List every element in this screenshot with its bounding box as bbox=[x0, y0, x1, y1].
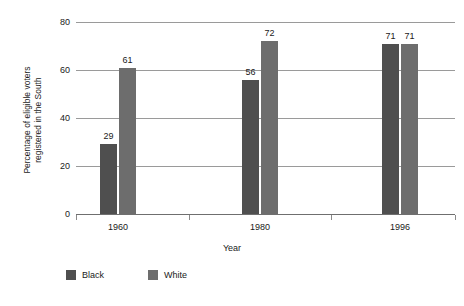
x-axis-title: Year bbox=[0, 243, 464, 253]
legend-item-black[interactable]: Black bbox=[66, 270, 104, 280]
legend-label: White bbox=[164, 270, 187, 280]
y-axis-tick-label: 60 bbox=[40, 65, 70, 75]
bar-white-1960 bbox=[119, 68, 136, 214]
bar-chart-figure: Percentage of eligible voters registered… bbox=[0, 0, 464, 306]
legend-swatch-icon bbox=[66, 270, 76, 280]
bar-black-1996 bbox=[382, 44, 399, 214]
y-axis-title-line-1: Percentage of eligible voters bbox=[22, 66, 34, 173]
y-axis-tick-label: 40 bbox=[40, 113, 70, 123]
bar-value-label: 71 bbox=[395, 31, 424, 41]
plot-area: 296156727171 196019801996 bbox=[76, 22, 455, 214]
legend-swatch-icon bbox=[148, 270, 158, 280]
bar-value-label: 61 bbox=[113, 55, 142, 65]
x-axis-tick bbox=[189, 215, 190, 220]
x-axis-group-label: 1980 bbox=[250, 222, 270, 232]
x-axis-group-label: 1960 bbox=[108, 222, 128, 232]
gridline bbox=[76, 22, 455, 23]
x-axis-group-label: 1996 bbox=[390, 222, 410, 232]
legend-label: Black bbox=[82, 270, 104, 280]
y-axis-tick-label: 20 bbox=[40, 161, 70, 171]
y-axis-tick-labels: 020406080 bbox=[40, 22, 70, 214]
x-axis-tick bbox=[76, 215, 77, 220]
bar-black-1960 bbox=[100, 144, 117, 214]
y-axis-tick-label: 80 bbox=[40, 17, 70, 27]
bar-white-1996 bbox=[401, 44, 418, 214]
legend-item-white[interactable]: White bbox=[148, 270, 187, 280]
chart-legend: BlackWhite bbox=[66, 270, 187, 280]
y-axis-tick-label: 0 bbox=[40, 209, 70, 219]
bar-black-1980 bbox=[242, 80, 259, 214]
x-axis-line bbox=[76, 214, 455, 215]
x-axis-tick bbox=[455, 215, 456, 220]
bar-value-label: 72 bbox=[255, 28, 284, 38]
x-axis-tick bbox=[331, 215, 332, 220]
bar-white-1980 bbox=[261, 41, 278, 214]
